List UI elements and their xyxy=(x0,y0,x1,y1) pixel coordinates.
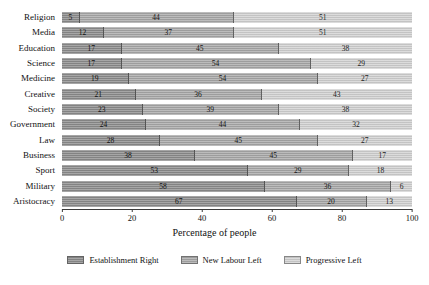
x-axis-tick-label: 20 xyxy=(128,213,137,224)
bar-segment-value: 12 xyxy=(62,27,103,38)
bar-segment: 29 xyxy=(248,165,350,176)
bar-segment-value: 45 xyxy=(122,43,279,54)
bar-row: 384517 xyxy=(62,150,412,161)
bar-row: 213643 xyxy=(62,89,412,100)
x-axis-tick: 80 xyxy=(338,209,347,224)
bar-segment-value: 21 xyxy=(62,89,135,100)
legend-swatch-icon xyxy=(67,256,84,264)
bar-segment: 32 xyxy=(300,119,412,130)
x-axis-tick: 0 xyxy=(60,209,64,224)
x-axis-tick: 60 xyxy=(268,209,277,224)
bar-segment: 44 xyxy=(80,12,234,23)
bar-row: 532918 xyxy=(62,165,412,176)
x-axis-tick-label: 100 xyxy=(406,213,419,224)
bar-segment: 38 xyxy=(279,43,412,54)
bar-segment-value: 32 xyxy=(300,119,412,130)
x-axis-tick-label: 80 xyxy=(338,213,347,224)
bar-segment: 38 xyxy=(279,104,412,115)
bar-row: 174538 xyxy=(62,43,412,54)
legend-item[interactable]: Establishment Right xyxy=(67,255,158,265)
tick-mark xyxy=(62,209,63,212)
bar-row: 58366 xyxy=(62,181,412,192)
bar-segment-value: 23 xyxy=(62,104,142,115)
bar-segment-value: 24 xyxy=(62,119,145,130)
legend-item[interactable]: Progressive Left xyxy=(284,255,362,265)
bar-segment-value: 45 xyxy=(160,135,317,146)
y-axis-label: Business xyxy=(0,150,58,161)
x-axis-tick: 40 xyxy=(198,209,207,224)
bar-segment: 27 xyxy=(318,73,413,84)
bar-segment: 29 xyxy=(311,58,413,69)
bar-segment: 36 xyxy=(136,89,262,100)
bar-segment: 5 xyxy=(62,12,80,23)
bar-segment: 45 xyxy=(122,43,280,54)
bar-segment: 51 xyxy=(234,12,413,23)
x-axis-tick-label: 60 xyxy=(268,213,277,224)
bar-row: 175429 xyxy=(62,58,412,69)
x-axis-tick-label: 0 xyxy=(60,213,64,224)
bar-segment-value: 5 xyxy=(62,12,79,23)
bar-segment-value: 39 xyxy=(143,104,279,115)
bar-segment-value: 19 xyxy=(62,73,128,84)
bar-segment-value: 37 xyxy=(104,27,233,38)
y-axis-label: Aristocracy xyxy=(0,196,58,207)
bar-segment: 36 xyxy=(265,181,391,192)
bar-segment: 38 xyxy=(62,150,195,161)
bar-segment-value: 18 xyxy=(349,165,412,176)
y-axis-label: Medicine xyxy=(0,73,58,84)
bar-segment: 43 xyxy=(262,89,413,100)
y-axis-label: Science xyxy=(0,58,58,69)
legend-label: Progressive Left xyxy=(306,255,362,265)
bar-segment: 51 xyxy=(234,27,413,38)
bar-row: 54451 xyxy=(62,12,412,23)
y-axis-label: Education xyxy=(0,43,58,54)
bar-segment: 19 xyxy=(62,73,129,84)
bar-segment-value: 13 xyxy=(367,196,413,207)
bar-segment: 37 xyxy=(104,27,234,38)
tick-mark xyxy=(272,209,273,212)
tick-mark xyxy=(412,209,413,212)
bar-segment-value: 27 xyxy=(318,135,413,146)
legend-swatch-icon xyxy=(181,256,198,264)
bar-segment: 58 xyxy=(62,181,265,192)
bar-segment: 54 xyxy=(122,58,311,69)
bar-segment-value: 36 xyxy=(136,89,261,100)
bar-segment: 54 xyxy=(129,73,318,84)
bar-segment: 17 xyxy=(353,150,413,161)
legend-swatch-icon xyxy=(284,256,301,264)
y-axis-label: Law xyxy=(0,135,58,146)
bar-row: 233938 xyxy=(62,104,412,115)
bar-segment: 13 xyxy=(367,196,413,207)
bar-segment-value: 44 xyxy=(80,12,233,23)
y-axis-label: Government xyxy=(0,119,58,130)
bar-segment-value: 17 xyxy=(62,43,121,54)
y-axis-label: Creative xyxy=(0,89,58,100)
bar-segment-value: 38 xyxy=(279,43,412,54)
tick-mark xyxy=(342,209,343,212)
bar-segment: 17 xyxy=(62,43,122,54)
bar-segment-value: 6 xyxy=(391,181,412,192)
legend-item[interactable]: New Labour Left xyxy=(181,255,262,265)
x-axis-tick: 20 xyxy=(128,209,137,224)
bar-row: 195427 xyxy=(62,73,412,84)
bar-segment-value: 58 xyxy=(62,181,264,192)
bar-segment: 17 xyxy=(62,58,122,69)
bar-segment-value: 67 xyxy=(62,196,296,207)
bar-segment: 39 xyxy=(143,104,280,115)
bar-segment: 6 xyxy=(391,181,412,192)
x-axis-tick-label: 40 xyxy=(198,213,207,224)
x-axis-title: Percentage of people xyxy=(0,227,429,238)
bar-segment: 20 xyxy=(297,196,367,207)
bar-segment: 24 xyxy=(62,119,146,130)
bar-segment-value: 17 xyxy=(353,150,413,161)
bar-segment-value: 20 xyxy=(297,196,366,207)
legend-label: New Labour Left xyxy=(203,255,262,265)
bar-segment-value: 28 xyxy=(62,135,159,146)
bar-row: 123751 xyxy=(62,27,412,38)
y-axis-category-labels: ReligionMediaEducationScienceMedicineCre… xyxy=(0,12,58,207)
bar-segment-value: 29 xyxy=(248,165,349,176)
bar-segment-value: 27 xyxy=(318,73,413,84)
bar-segment-value: 45 xyxy=(195,150,352,161)
chart-legend: Establishment RightNew Labour LeftProgre… xyxy=(0,255,429,265)
bar-segment: 45 xyxy=(195,150,353,161)
